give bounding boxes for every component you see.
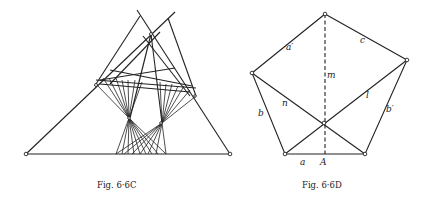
- label-c: c: [360, 35, 365, 45]
- label-n: n: [282, 98, 288, 108]
- caption-fig-6-6d: Fig. 6·6D: [302, 180, 342, 190]
- label-a: a: [300, 157, 305, 167]
- label-b: b: [258, 108, 264, 118]
- figures-canvas: a′ c m n l b b′ a A: [0, 0, 431, 200]
- figure-6-6c: [24, 10, 232, 156]
- caption-fig-6-6c: Fig. 6·6C: [97, 180, 136, 190]
- figure-6-6d: a′ c m n l b b′ a A: [250, 12, 409, 167]
- label-m: m: [327, 70, 336, 80]
- label-b-prime: b′: [386, 104, 394, 114]
- label-a-prime: a′: [286, 42, 293, 52]
- label-l: l: [366, 90, 369, 100]
- label-A: A: [319, 157, 327, 167]
